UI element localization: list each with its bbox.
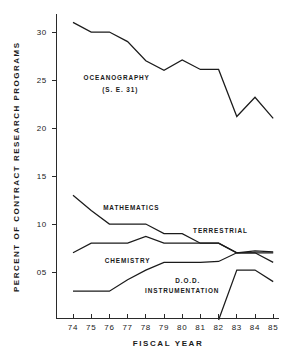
x-axis-title: FISCAL YEAR <box>133 339 204 348</box>
series-annotation: TERRESTRIAL <box>193 227 248 234</box>
data-series-group <box>73 22 273 320</box>
x-tick-label: 77 <box>122 323 132 332</box>
x-tick-label: 78 <box>141 323 151 332</box>
x-tick-label: 85 <box>268 323 278 332</box>
y-tick-label: 25 <box>37 76 47 85</box>
chart-container: 051015202530 747576777879808182838485 OC… <box>0 0 293 359</box>
x-tick-label: 79 <box>159 323 169 332</box>
series-line-chemistry <box>73 251 273 291</box>
series-line-oceanography <box>73 22 273 118</box>
series-annotation: OCEANOGRAPHY <box>84 74 150 81</box>
x-tick-label: 81 <box>195 323 205 332</box>
y-tick-label: 15 <box>37 172 47 181</box>
x-tick-label: 76 <box>104 323 114 332</box>
y-axis-ticks <box>52 32 57 272</box>
series-line-d-o-d-instrumentation <box>219 270 274 320</box>
y-tick-label: 20 <box>37 124 47 133</box>
x-tick-label: 74 <box>68 323 78 332</box>
series-annotation: D.O.D. <box>175 277 200 284</box>
series-annotation: (S. E. 31) <box>102 86 138 94</box>
x-tick-label: 83 <box>232 323 242 332</box>
x-axis-tick-labels: 747576777879808182838485 <box>68 323 279 332</box>
line-chart-figure: 051015202530 747576777879808182838485 OC… <box>0 0 293 359</box>
x-tick-label: 80 <box>177 323 187 332</box>
series-annotation: CHEMISTRY <box>105 257 151 264</box>
series-annotation: INSTRUMENTATION <box>145 287 219 294</box>
series-annotation: MATHEMATICS <box>103 204 159 211</box>
x-tick-label: 84 <box>250 323 260 332</box>
x-axis-ticks <box>73 314 273 319</box>
axis-lines <box>57 14 280 319</box>
y-axis-tick-labels: 051015202530 <box>37 28 47 277</box>
series-line-terrestrial <box>73 236 273 262</box>
x-tick-label: 75 <box>86 323 96 332</box>
chart-axes <box>57 14 280 319</box>
y-tick-label: 10 <box>37 220 47 229</box>
y-tick-label: 30 <box>37 28 47 37</box>
x-tick-label: 82 <box>213 323 223 332</box>
y-tick-label: 05 <box>37 268 47 277</box>
y-axis-title: PERCENT OF CONTRACT RESEARCH PROGRAMS <box>12 41 21 292</box>
series-annotations: OCEANOGRAPHY(S. E. 31)MATHEMATICSTERREST… <box>84 74 248 294</box>
